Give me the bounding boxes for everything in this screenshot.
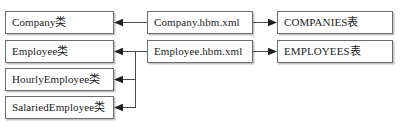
node-company-hbm-xml: Company.hbm.xml (147, 11, 253, 34)
node-label: HourlyEmployee类 (6, 73, 100, 86)
node-salaried-employee-class: SalariedEmployee类 (5, 96, 114, 119)
arrow-employee-hbm-to-salaried-employee-class (114, 104, 123, 111)
node-label: SalariedEmployee类 (6, 101, 105, 114)
node-company-class: Company类 (5, 11, 114, 34)
node-label: COMPANIES表 (278, 16, 359, 29)
connector-company-hbm-to-company-class (114, 19, 147, 26)
connector-company-hbm-to-companies-table (253, 19, 277, 26)
node-label: Employee类 (6, 45, 69, 58)
node-label: EMPLOYEES表 (278, 45, 361, 58)
connector-employee-hbm-to-employees-table (253, 48, 277, 55)
node-companies-table: COMPANIES表 (277, 11, 393, 34)
arrow-employee-hbm-to-employee-class (114, 48, 123, 55)
node-employee-class: Employee类 (5, 40, 114, 63)
node-employee-hbm-xml: Employee.hbm.xml (147, 40, 253, 63)
node-label: Employee.hbm.xml (148, 45, 242, 58)
orm-mapping-diagram: Company类 Employee类 HourlyEmployee类 Salar… (0, 0, 403, 137)
node-hourly-employee-class: HourlyEmployee类 (5, 68, 114, 91)
arrow-employee-hbm-to-hourly-employee-class (114, 76, 123, 83)
connector-employee-hbm-branch-bus (122, 52, 147, 108)
node-label: Company类 (6, 16, 67, 29)
node-label: Company.hbm.xml (148, 16, 240, 29)
node-employees-table: EMPLOYEES表 (277, 40, 393, 63)
